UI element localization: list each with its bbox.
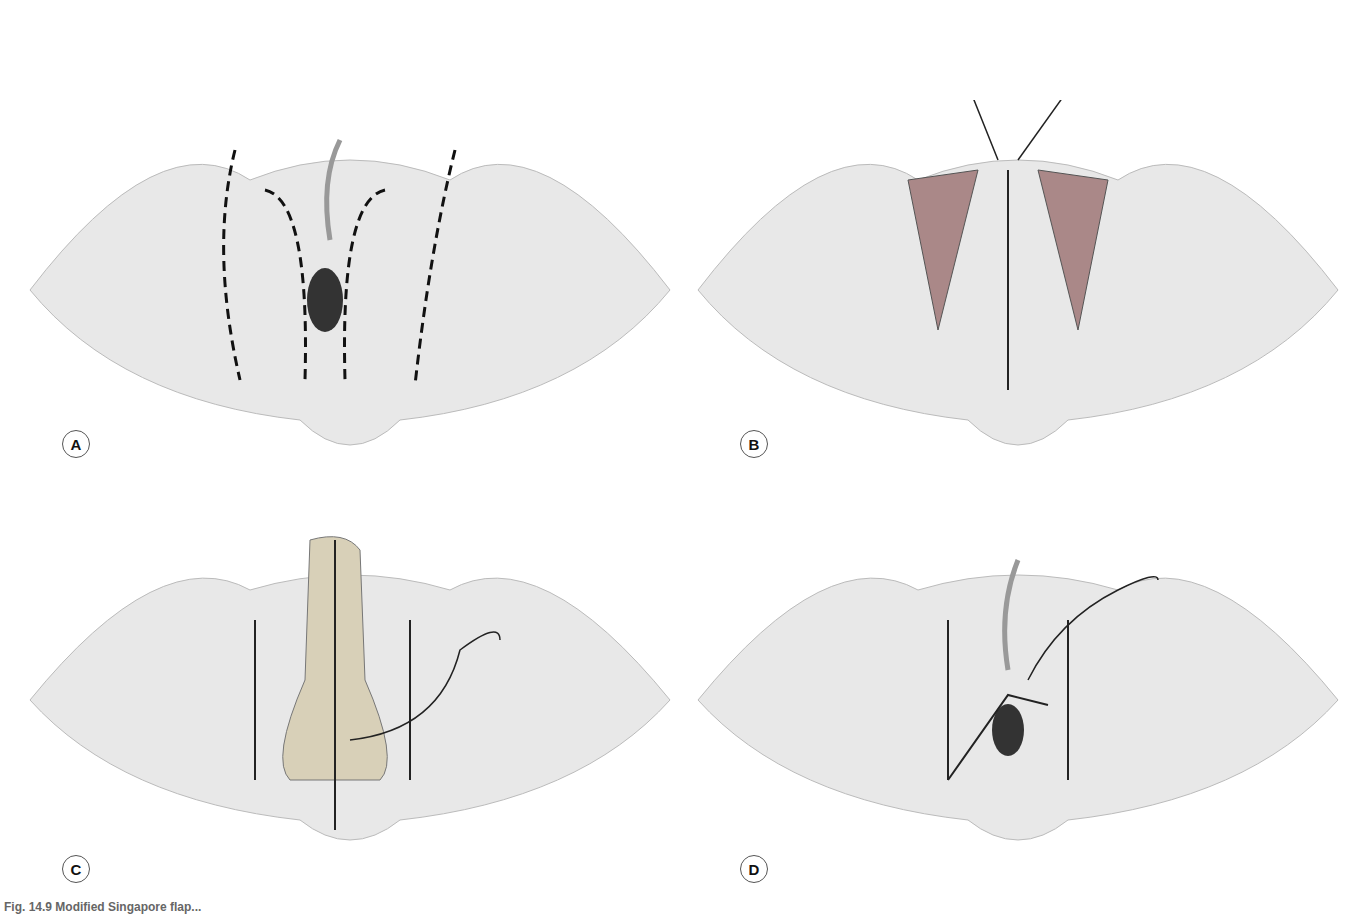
illustration-b	[688, 100, 1348, 460]
panel-label-b: B	[740, 430, 768, 458]
panel-label-d: D	[740, 855, 768, 883]
illustration-a	[20, 100, 680, 460]
panel-label-a: A	[62, 430, 90, 458]
figure-caption: Fig. 14.9 Modified Singapore flap...	[4, 900, 201, 914]
panel-c: C	[20, 530, 680, 918]
panel-d: D	[688, 530, 1348, 918]
illustration-c	[20, 530, 680, 860]
panel-b: B	[688, 100, 1348, 540]
panel-a: A	[20, 100, 680, 540]
panel-label-c: C	[62, 855, 90, 883]
illustration-d	[688, 530, 1348, 860]
